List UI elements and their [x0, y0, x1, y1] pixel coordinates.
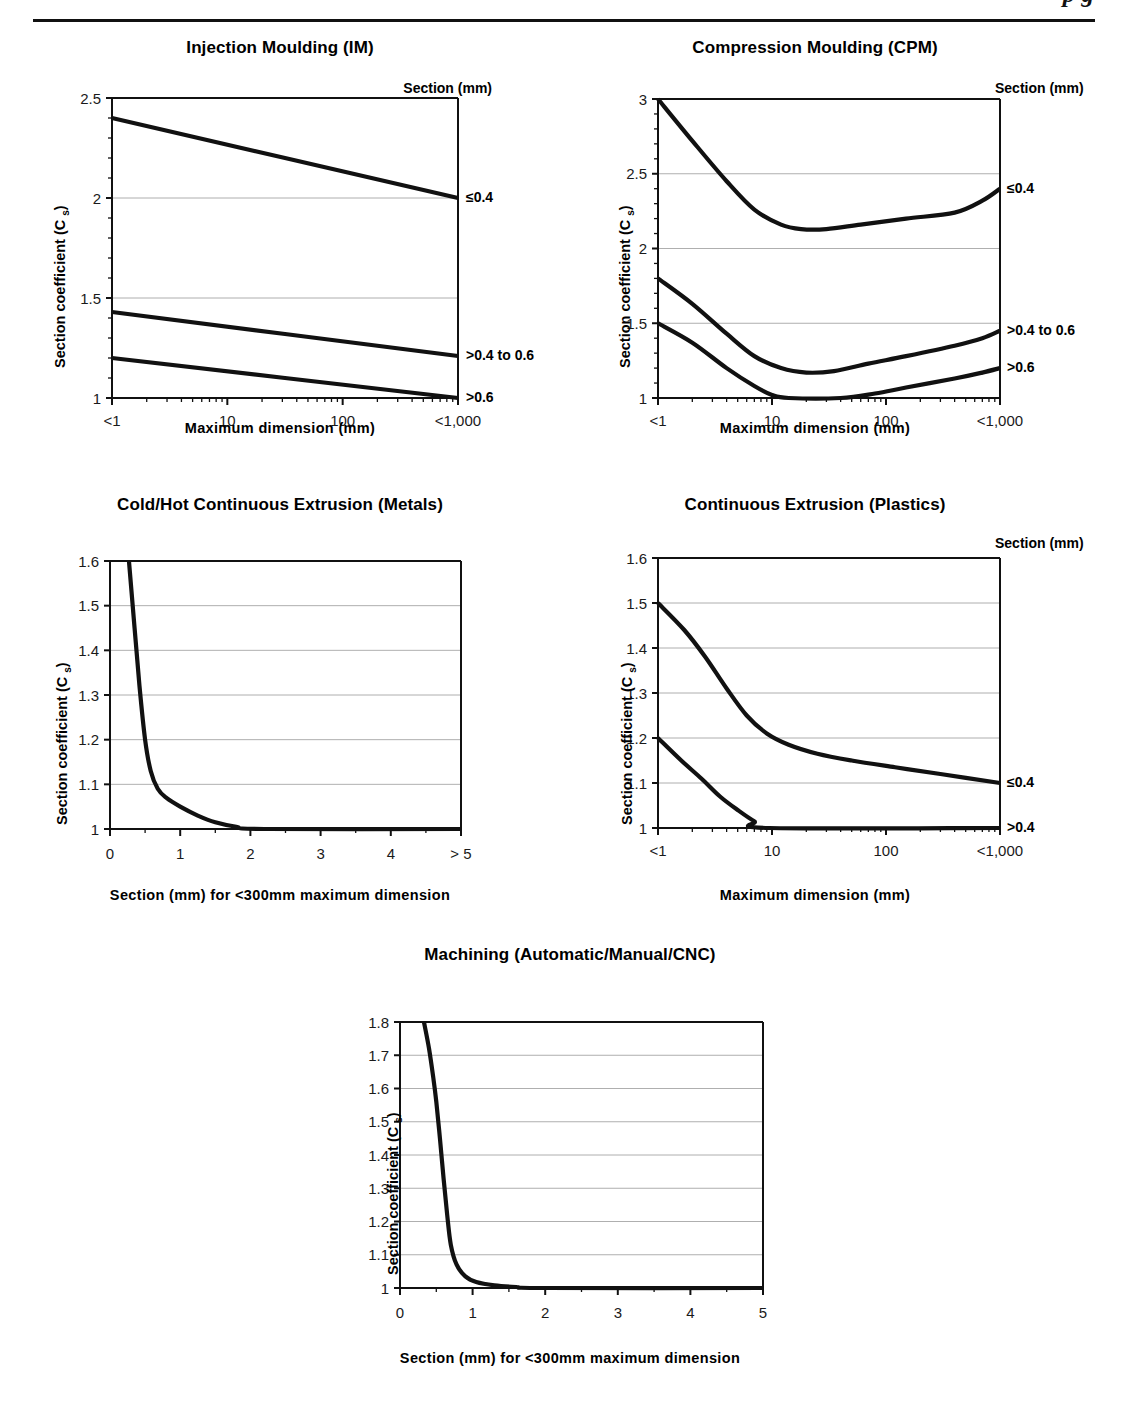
series-label: >0.4 [1007, 819, 1035, 835]
chart-title: Continuous Extrusion (Plastics) [595, 495, 1035, 515]
svg-text:100: 100 [873, 842, 898, 859]
svg-text:3: 3 [614, 1304, 622, 1321]
svg-text:1: 1 [468, 1304, 476, 1321]
svg-text:1: 1 [639, 390, 647, 407]
plot-area: 11.11.21.31.41.51.6<110100<1,000 [595, 495, 1105, 925]
series-label: >0.6 [466, 389, 494, 405]
chart-cold-hot-continuous-extrusion: Cold/Hot Continuous Extrusion (Metals) S… [30, 495, 530, 925]
svg-text:10: 10 [764, 842, 781, 859]
svg-text:0: 0 [396, 1304, 404, 1321]
svg-text:<1,000: <1,000 [977, 842, 1023, 859]
legend-title: Section (mm) [995, 535, 1084, 551]
running-head-rule [33, 19, 1095, 22]
series-curve [112, 358, 458, 398]
svg-text:1.4: 1.4 [78, 642, 99, 659]
plot-area: 11.11.21.31.41.51.601234> 5 [30, 495, 530, 925]
chart-title: Cold/Hot Continuous Extrusion (Metals) [30, 495, 530, 515]
chart-title: Machining (Automatic/Manual/CNC) [250, 945, 890, 965]
svg-text:1.5: 1.5 [78, 597, 99, 614]
svg-text:1: 1 [381, 1280, 389, 1297]
legend-title: Section (mm) [403, 80, 492, 96]
legend-title: Section (mm) [995, 80, 1084, 96]
plot-area: 11.522.53<110100<1,000 [595, 38, 1105, 478]
svg-text:2: 2 [246, 845, 254, 862]
svg-text:3: 3 [639, 91, 647, 108]
chart-compression-moulding: Compression Moulding (CPM) Section (mm) … [595, 38, 1105, 478]
series-label: ≤0.4 [1007, 180, 1034, 196]
y-axis-label: Section coefficient (C s) [54, 662, 73, 825]
svg-text:<1: <1 [649, 842, 666, 859]
running-head-text: p g [1063, 0, 1094, 8]
y-axis-label: Section coefficient (C s) [52, 205, 71, 368]
figure-page: p g Injection Moulding (IM) Section (mm)… [0, 0, 1134, 1411]
svg-text:2: 2 [93, 190, 101, 207]
svg-text:3: 3 [316, 845, 324, 862]
chart-continuous-extrusion-plastics: Continuous Extrusion (Plastics) Section … [595, 495, 1105, 925]
svg-text:0: 0 [106, 845, 114, 862]
x-axis-label: Section (mm) for <300mm maximum dimensio… [30, 887, 530, 903]
plot-area: 11.522.5<110100<1,000 [30, 38, 530, 478]
y-axis-label: Section coefficient (C s) [617, 205, 636, 368]
svg-text:> 5: > 5 [450, 845, 471, 862]
svg-text:1.6: 1.6 [368, 1080, 389, 1097]
chart-title: Injection Moulding (IM) [30, 38, 530, 58]
svg-text:1: 1 [176, 845, 184, 862]
svg-text:4: 4 [686, 1304, 694, 1321]
series-curve [658, 323, 1000, 398]
svg-text:1.6: 1.6 [78, 553, 99, 570]
svg-text:1: 1 [639, 820, 647, 837]
svg-text:1: 1 [91, 821, 99, 838]
svg-text:1.4: 1.4 [626, 640, 647, 657]
svg-text:2.5: 2.5 [80, 90, 101, 107]
svg-text:1.3: 1.3 [78, 687, 99, 704]
series-curve [112, 118, 458, 198]
series-label: ≤0.4 [1007, 774, 1034, 790]
svg-text:1.7: 1.7 [368, 1047, 389, 1064]
svg-text:5: 5 [759, 1304, 767, 1321]
chart-machining: Machining (Automatic/Manual/CNC) Section… [250, 945, 890, 1395]
x-axis-label: Section (mm) for <300mm maximum dimensio… [250, 1350, 890, 1366]
svg-text:2.5: 2.5 [626, 165, 647, 182]
x-axis-label: Maximum dimension (mm) [595, 887, 1035, 903]
x-axis-label: Maximum dimension (mm) [595, 420, 1035, 436]
series-label: ≤0.4 [466, 189, 493, 205]
x-axis-label: Maximum dimension (mm) [30, 420, 530, 436]
svg-text:2: 2 [639, 240, 647, 257]
svg-text:1.8: 1.8 [368, 1014, 389, 1031]
series-label: >0.4 to 0.6 [466, 347, 534, 363]
svg-text:4: 4 [387, 845, 395, 862]
chart-title: Compression Moulding (CPM) [595, 38, 1035, 58]
series-curve [658, 99, 1000, 230]
svg-text:1.2: 1.2 [78, 731, 99, 748]
series-label: >0.6 [1007, 359, 1035, 375]
series-curve [112, 312, 458, 356]
y-axis-label: Section coefficient (C s) [619, 662, 638, 825]
running-head: p g [0, 0, 1134, 30]
svg-text:2: 2 [541, 1304, 549, 1321]
svg-text:1.5: 1.5 [626, 595, 647, 612]
svg-text:1: 1 [93, 390, 101, 407]
svg-text:1.6: 1.6 [626, 550, 647, 567]
chart-injection-moulding: Injection Moulding (IM) Section (mm) Sec… [30, 38, 530, 478]
series-curve [658, 278, 1000, 372]
svg-text:1.1: 1.1 [78, 776, 99, 793]
y-axis-label: Section coefficient (C s) [385, 1112, 404, 1275]
plot-area: 11.11.21.31.41.51.61.71.8012345 [250, 945, 890, 1395]
series-label: >0.4 to 0.6 [1007, 322, 1075, 338]
svg-text:1.5: 1.5 [80, 290, 101, 307]
